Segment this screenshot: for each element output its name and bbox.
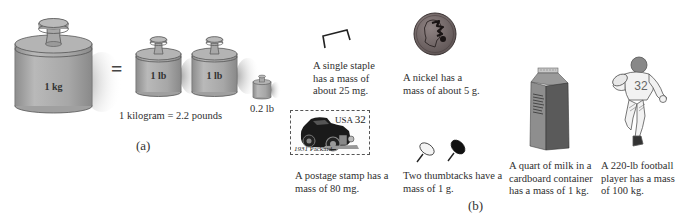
panel-a-label: (a) — [136, 138, 150, 154]
weight-label: 1 kg — [44, 81, 62, 92]
nickel-caption: A nickel has a mass of about 5 g. — [403, 72, 480, 97]
milk-carton-icon — [528, 66, 572, 152]
kilogram-weight: 1 kg — [10, 14, 120, 114]
weight-label: 1 lb — [207, 70, 223, 81]
football-player-icon: 32 — [605, 56, 671, 152]
thumbtacks-caption: Two thumbtacks have a mass of 1 g. — [403, 170, 502, 195]
postage-stamp: USA 32 1931 Packard — [290, 110, 370, 155]
staple-icon — [322, 28, 352, 50]
stamp-caption: 1931 Packard — [294, 145, 332, 153]
equals-sign: = — [111, 58, 122, 81]
small-weight-label: 0.2 lb — [250, 103, 274, 116]
staple-caption: A single staple has a mass of about 25 m… — [313, 60, 375, 98]
thumbtack-light-icon — [414, 140, 436, 164]
panel-b-label: (b) — [468, 198, 483, 214]
thumbtack-dark-icon — [445, 138, 467, 164]
football-caption: A 220-lb football player has a mass of 1… — [601, 160, 675, 198]
pound-weight-2: 1 lb — [190, 34, 260, 100]
jersey-number: 32 — [634, 79, 648, 93]
small-weight — [252, 72, 282, 102]
stamp-country: USA 32 — [335, 113, 366, 125]
stamp-caption-text: A postage stamp has a mass of 80 mg. — [295, 170, 388, 195]
nickel-icon — [413, 12, 457, 56]
milk-caption: A quart of milk in a cardboard container… — [509, 160, 593, 198]
conversion-equation: 1 kilogram = 2.2 pounds — [119, 110, 222, 123]
weight-label: 1 lb — [151, 70, 167, 81]
